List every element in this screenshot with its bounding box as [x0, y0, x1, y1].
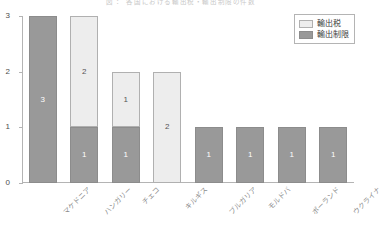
legend-label: 輸出税 [317, 20, 341, 28]
bar-segment-restriction[interactable]: 1 [236, 127, 264, 183]
x-axis-label: ウクライナ [353, 186, 382, 216]
bar-value-label: 1 [124, 96, 128, 104]
y-tick-label: 1 [0, 123, 10, 131]
bar-group[interactable]: 1 [236, 16, 264, 183]
bar-segment-tax[interactable]: 1 [112, 72, 140, 128]
x-axis-label: マケドニア [62, 186, 92, 216]
y-tick-label: 2 [0, 68, 10, 76]
y-tick-mark [19, 183, 23, 184]
bar-segment-tax[interactable]: 2 [70, 16, 98, 127]
chart-title: 図 ： 各国における輸出税・輸出制限の件数 [0, 0, 362, 6]
bar-group[interactable]: 2 [153, 16, 181, 183]
x-axis-label: モルドバ [267, 186, 292, 211]
x-axis-label: キルギス [184, 186, 209, 211]
bar-value-label: 1 [248, 151, 252, 159]
bar-segment-restriction[interactable]: 1 [112, 127, 140, 183]
legend-item[interactable]: 輸出税 [299, 18, 349, 29]
bar-value-label: 1 [82, 151, 86, 159]
bar-value-label: 3 [41, 96, 45, 104]
bar-value-label: 2 [165, 123, 169, 131]
bar-segment-restriction[interactable]: 1 [319, 127, 347, 183]
y-tick-label: 3 [0, 12, 10, 20]
x-axis-label: チェコ [141, 186, 161, 206]
x-axis-label: ブルガリア [228, 186, 258, 216]
legend-swatch [299, 31, 313, 39]
y-axis-line [22, 16, 23, 183]
legend-label: 輸出制限 [317, 31, 349, 39]
bar-group[interactable]: 11 [112, 16, 140, 183]
legend-swatch [299, 20, 313, 28]
bar-segment-restriction[interactable]: 1 [195, 127, 223, 183]
bar-segment-restriction[interactable]: 3 [29, 16, 57, 183]
bar-value-label: 1 [331, 151, 335, 159]
bar-value-label: 1 [207, 151, 211, 159]
legend-item[interactable]: 輸出制限 [299, 29, 349, 40]
bar-value-label: 1 [290, 151, 294, 159]
bar-value-label: 1 [124, 151, 128, 159]
x-axis-label: ポーランド [311, 186, 341, 216]
bar-group[interactable]: 12 [70, 16, 98, 183]
bar-group[interactable]: 3 [29, 16, 57, 183]
bar-group[interactable]: 1 [195, 16, 223, 183]
x-axis-label: ハンガリー [104, 186, 134, 216]
bar-segment-restriction[interactable]: 1 [70, 127, 98, 183]
bar-segment-tax[interactable]: 2 [153, 72, 181, 183]
y-tick-mark [19, 16, 23, 17]
bar-value-label: 2 [82, 68, 86, 76]
bar-segment-restriction[interactable]: 1 [278, 127, 306, 183]
y-tick-label: 0 [0, 179, 10, 187]
y-tick-mark [19, 72, 23, 73]
legend: 輸出税輸出制限 [294, 14, 355, 44]
y-tick-mark [19, 127, 23, 128]
